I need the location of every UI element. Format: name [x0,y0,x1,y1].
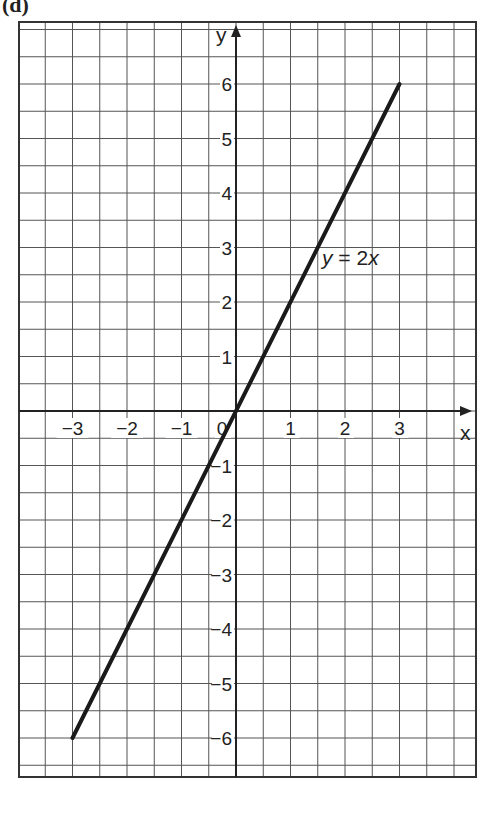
plot-border [19,22,476,777]
axes [19,25,472,777]
svg-text:4: 4 [221,183,232,204]
line-chart: −3−2−10123−6−5−4−3−2−1123456 x y y = 2x [0,0,496,816]
svg-text:−3: −3 [210,565,232,586]
svg-text:2: 2 [340,418,351,439]
svg-text:5: 5 [221,129,232,150]
equation-label: y = 2x [320,246,380,269]
y-axis-label: y [216,23,227,46]
svg-text:−6: −6 [210,728,232,749]
svg-text:−2: −2 [116,418,138,439]
svg-text:−3: −3 [62,418,84,439]
svg-text:−4: −4 [210,619,232,640]
svg-text:3: 3 [394,418,405,439]
svg-text:−5: −5 [210,674,232,695]
svg-text:2: 2 [221,292,232,313]
grid-lines [19,22,476,777]
x-axis-label: x [460,421,471,444]
svg-text:−2: −2 [210,510,232,531]
svg-text:6: 6 [221,74,232,95]
svg-text:1: 1 [285,418,296,439]
svg-text:3: 3 [221,238,232,259]
svg-text:−1: −1 [171,418,193,439]
svg-text:1: 1 [221,347,232,368]
